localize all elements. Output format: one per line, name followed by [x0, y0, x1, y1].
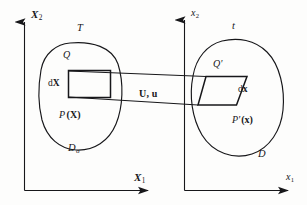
left-point-label-PX: P(X) [59, 110, 81, 120]
figure-vector-graphics [0, 0, 307, 205]
left-x-axis-label: X1 [134, 172, 145, 185]
displacement-vector-label: U, u [139, 89, 158, 99]
right-y-axis-label: x2 [191, 8, 199, 19]
left-axes [25, 22, 149, 191]
right-point-label-Px: P'(x) [232, 115, 253, 125]
right-corner-label-Q-prime: Q' [213, 59, 222, 69]
left-corner-label-Q: Q [63, 50, 70, 60]
current-domain-label: D [258, 149, 266, 160]
mapping-band [68, 71, 206, 105]
mapping-line-upper [68, 71, 206, 77]
right-configuration-label: t [232, 21, 235, 32]
reference-domain-label: Do [68, 143, 79, 155]
current-body-outline [191, 39, 283, 156]
element-label-dx: dx [238, 85, 248, 95]
deformation-figure: X2 X1 T Q dX P(X) Do U, u x2 x1 t Q' dx … [0, 0, 307, 205]
left-configuration-label: T [77, 23, 83, 34]
right-x-axis-label: x1 [286, 172, 294, 183]
element-label-dX: dX [48, 79, 60, 89]
reference-body-outline [39, 43, 122, 150]
material-element-dX [69, 71, 111, 98]
left-y-axis-label: X2 [31, 9, 42, 22]
